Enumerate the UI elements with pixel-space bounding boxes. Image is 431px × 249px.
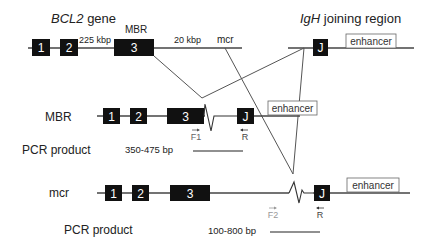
distance-20-kbp: 20 kbp <box>174 35 201 45</box>
mcr-row-label: mcr <box>49 186 69 200</box>
mbr-exon-2-label: 2 <box>135 110 142 124</box>
top-exon-2-label: 2 <box>66 41 73 55</box>
mcr-exon-3-label: 3 <box>187 187 194 201</box>
mcr-pcr-product-label: PCR product <box>64 223 133 237</box>
mbr-breakpoint-line-left <box>154 56 202 98</box>
top-enhancer-label: enhancer <box>350 36 392 47</box>
mbr-pcr-size: 350-475 bp <box>125 144 173 155</box>
igh-region-title: IgH joining region <box>300 11 401 26</box>
top-exon-1-label: 1 <box>38 41 45 55</box>
mbr-j-label: J <box>243 110 249 124</box>
mbr-breakpoint-zigzag <box>204 104 238 131</box>
mbr-exon-3-label: 3 <box>182 110 189 124</box>
mcr-exon-1-label: 1 <box>110 187 117 201</box>
mbr-primer-r: R <box>242 132 249 142</box>
mbr-enhancer-label: enhancer <box>272 103 314 114</box>
top-mbr-label: MBR <box>125 24 147 35</box>
bcl2-gene-title: BCL2 gene <box>51 11 116 26</box>
mcr-exon-2-label: 2 <box>137 187 144 201</box>
distance-225-kbp: 225 kbp <box>79 35 111 45</box>
mcr-enhancer-label: enhancer <box>352 180 394 191</box>
mbr-row-label: MBR <box>45 110 72 124</box>
mcr-pcr-size: 100-800 bp <box>208 225 256 236</box>
top-mcr-label: mcr <box>217 34 234 45</box>
mbr-primer-f1: F1 <box>191 132 202 142</box>
bcl2-igh-translocation-diagram: BCL2 gene 1 2 225 kbp MBR 3 20 kbp mcr I… <box>0 0 431 249</box>
mcr-primer-f2: F2 <box>268 210 279 220</box>
mcr-breakpoint-zigzag <box>289 182 313 203</box>
mcr-primer-r: R <box>317 210 324 220</box>
mcr-j-label: J <box>319 187 325 201</box>
mbr-exon-1-label: 1 <box>108 110 115 124</box>
mbr-pcr-product-label: PCR product <box>22 143 91 157</box>
top-exon-3-label: 3 <box>131 41 138 55</box>
top-j-label: J <box>318 41 324 55</box>
mbr-breakpoint-line-right <box>202 48 304 98</box>
